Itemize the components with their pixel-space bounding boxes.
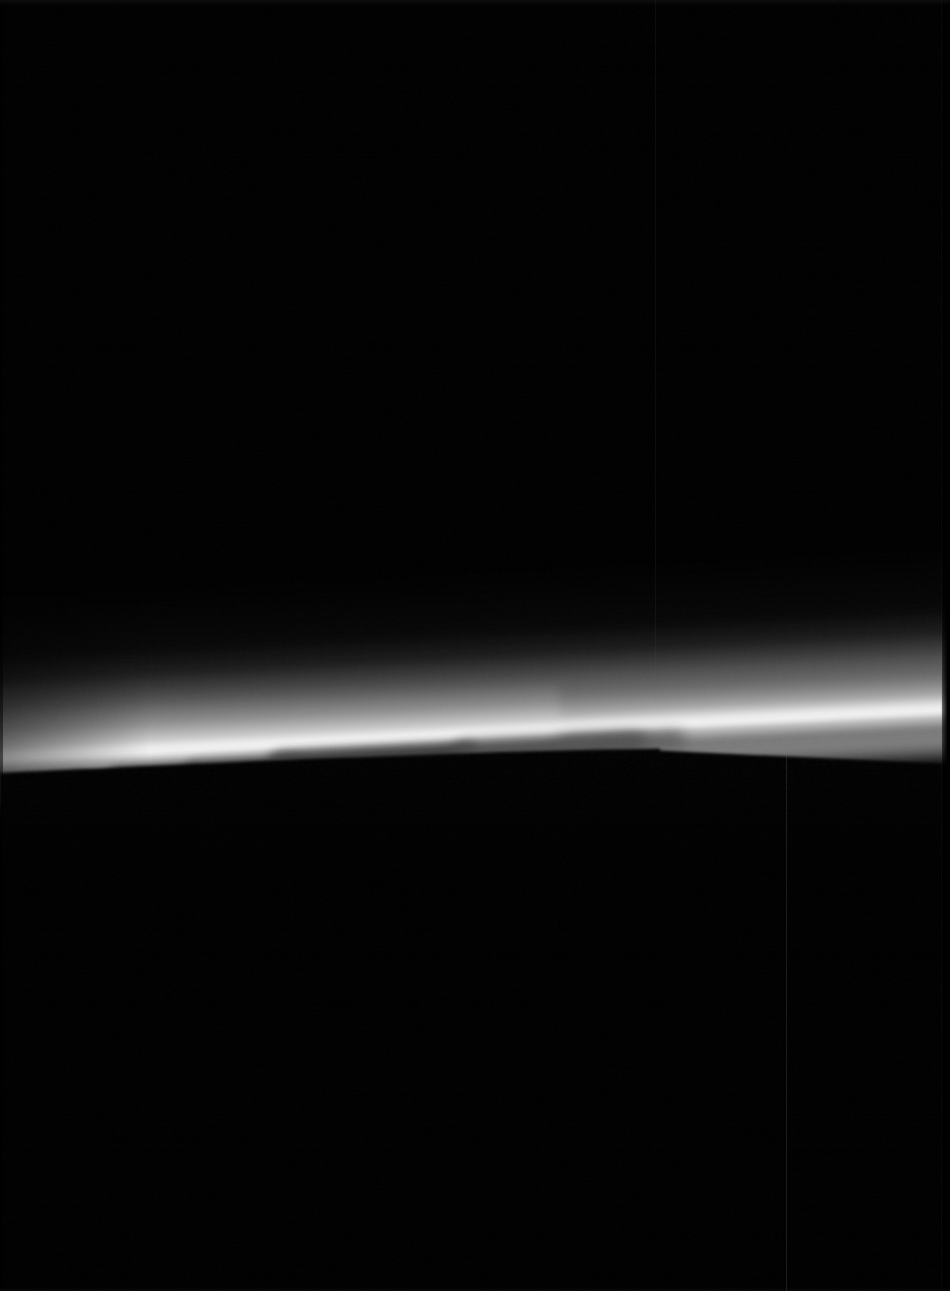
limb-core-line <box>0 0 950 1291</box>
cloud-blob-left-small <box>108 763 200 779</box>
cloud-silhouette-group <box>0 0 950 1291</box>
cloud-blob-left-mid <box>186 756 307 775</box>
space-background <box>0 0 950 1291</box>
ccd-column-artifacts <box>0 0 950 1291</box>
upper-haze-halo <box>0 0 950 1291</box>
frame-edge-vignette <box>0 0 950 1291</box>
column-artifact-right <box>786 744 787 1291</box>
cloud-faint-far-left <box>20 774 90 786</box>
cloud-streak-center-low <box>300 753 470 774</box>
bottom-edge-noise-band <box>0 1287 950 1291</box>
right-edge-dark-strip <box>942 0 950 1291</box>
sensor-noise-grain <box>0 0 950 1291</box>
image-canvas: Planetary limb with atmospheric haze ban… <box>0 0 950 1291</box>
top-edge-noise-band <box>0 0 950 6</box>
left-edge-dark-strip <box>0 0 3 1291</box>
limb-haze-band <box>0 0 950 1291</box>
column-artifact-far-right <box>941 0 942 1291</box>
cloud-streak-center <box>268 741 479 768</box>
cloud-tail-right <box>556 731 687 752</box>
cloud-wedge-right <box>452 732 649 760</box>
night-side-body <box>0 0 950 1291</box>
terminator-shadow-cut <box>0 0 950 1291</box>
column-artifact-left <box>655 0 656 700</box>
